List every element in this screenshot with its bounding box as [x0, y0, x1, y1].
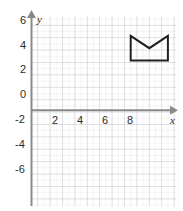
coordinate-grid-canvas [0, 0, 183, 211]
x-tick-label-6: 6 [102, 115, 108, 126]
y-axis-name-label: y [37, 14, 42, 25]
x-axis-name-label: x [170, 115, 175, 126]
y-tick-label-minus-2: -2 [15, 114, 25, 125]
x-tick-label-8: 8 [127, 115, 133, 126]
y-tick-label-2: 2 [20, 64, 26, 75]
y-tick-label-4: 4 [20, 40, 26, 51]
y-tick-label-minus-4: -4 [15, 139, 25, 150]
y-axis-arrow-icon [27, 10, 36, 18]
y-tick-label-0: 0 [20, 89, 26, 100]
y-tick-label-minus-6: -6 [15, 164, 25, 175]
x-tick-label-2: 2 [52, 115, 58, 126]
y-tick-label-6: 6 [20, 15, 26, 26]
x-tick-label-4: 4 [77, 115, 83, 126]
coordinate-plane-figure: 6 4 2 0 -2 -4 -6 2 4 6 8 y x [0, 0, 183, 211]
